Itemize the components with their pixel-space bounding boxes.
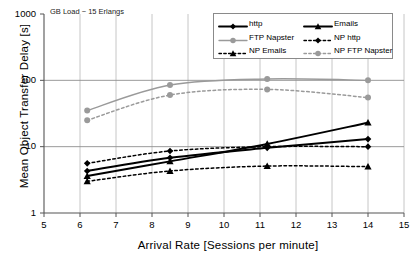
data-marker-circle bbox=[167, 82, 173, 88]
x-tick-label: 6 bbox=[70, 219, 90, 230]
y-tick-label: 1000 bbox=[0, 8, 36, 19]
data-marker-diamond bbox=[84, 160, 91, 167]
legend-swatch-np-ftp-napster bbox=[303, 45, 333, 56]
data-marker-circle bbox=[365, 95, 371, 101]
legend-sample-glyph bbox=[218, 21, 248, 32]
data-marker-diamond bbox=[315, 37, 321, 43]
legend-sample-glyph bbox=[218, 48, 248, 59]
data-marker-circle bbox=[264, 76, 270, 82]
x-tick-label: 5 bbox=[34, 219, 54, 230]
data-marker-circle bbox=[84, 108, 90, 114]
y-tick-label: 100 bbox=[0, 74, 36, 85]
series-np-ftp-napster bbox=[84, 86, 371, 123]
data-marker-circle bbox=[230, 38, 236, 44]
legend-item-np-http[interactable]: NP http bbox=[303, 32, 388, 43]
chart-figure: Mean Object Transfer Delay [s] Arrival R… bbox=[0, 0, 412, 262]
legend-label-emails: Emails bbox=[333, 19, 358, 28]
legend-label-http: http bbox=[248, 19, 262, 28]
plot-annotation: GB Load ~ 15 Erlangs bbox=[50, 7, 124, 16]
data-marker-diamond bbox=[365, 136, 372, 143]
legend-label-ftp-napster: FTP Napster bbox=[248, 33, 294, 42]
series-ftp-napster bbox=[84, 76, 371, 114]
series-line bbox=[87, 89, 368, 120]
x-tick-label: 13 bbox=[322, 219, 342, 230]
data-marker-circle bbox=[84, 117, 90, 123]
data-marker-circle bbox=[365, 77, 371, 83]
legend-swatch-np-http bbox=[303, 32, 333, 43]
y-tick-label: 1 bbox=[0, 207, 36, 218]
legend-item-np-ftp-napster[interactable]: NP FTP Napster bbox=[303, 45, 388, 56]
legend-swatch-http bbox=[218, 18, 248, 29]
data-marker-diamond bbox=[167, 148, 174, 155]
data-marker-circle bbox=[264, 86, 270, 92]
legend-swatch-np-emails bbox=[218, 45, 248, 56]
legend-item-np-emails[interactable]: NP Emails bbox=[218, 45, 303, 56]
x-tick-label: 11 bbox=[250, 219, 270, 230]
data-marker-triangle bbox=[364, 163, 371, 170]
legend-label-np-emails: NP Emails bbox=[248, 46, 286, 55]
data-marker-circle bbox=[315, 51, 321, 57]
legend-sample-glyph bbox=[218, 35, 248, 46]
legend-swatch-ftp-napster bbox=[218, 32, 248, 43]
legend-label-np-http: NP http bbox=[333, 33, 361, 42]
legend-row: NP Emails NP FTP Napster bbox=[218, 44, 388, 58]
series-np-emails bbox=[84, 162, 372, 184]
legend-sample-glyph bbox=[303, 35, 333, 46]
data-marker-circle bbox=[167, 92, 173, 98]
data-marker-diamond bbox=[365, 143, 372, 150]
x-tick-label: 8 bbox=[142, 219, 162, 230]
y-tick-label: 10 bbox=[0, 140, 36, 151]
legend-item-ftp-napster[interactable]: FTP Napster bbox=[218, 32, 303, 43]
legend-sample-glyph bbox=[303, 21, 333, 32]
data-marker-diamond bbox=[230, 24, 236, 30]
series-line bbox=[87, 146, 368, 163]
chart-legend: http Emails FTP Napster NP http NP Email… bbox=[213, 13, 393, 59]
x-tick-label: 15 bbox=[394, 219, 412, 230]
legend-row: FTP Napster NP http bbox=[218, 31, 388, 45]
x-tick-label: 9 bbox=[178, 219, 198, 230]
x-tick-label: 14 bbox=[358, 219, 378, 230]
legend-sample-glyph bbox=[303, 48, 333, 59]
legend-swatch-emails bbox=[303, 18, 333, 29]
legend-row: http Emails bbox=[218, 17, 388, 31]
legend-item-http[interactable]: http bbox=[218, 18, 303, 29]
series-emails bbox=[84, 119, 372, 179]
legend-item-emails[interactable]: Emails bbox=[303, 18, 388, 29]
legend-label-np-ftp-napster: NP FTP Napster bbox=[333, 46, 392, 55]
x-tick-label: 10 bbox=[214, 219, 234, 230]
x-tick-label: 12 bbox=[286, 219, 306, 230]
x-tick-label: 7 bbox=[106, 219, 126, 230]
